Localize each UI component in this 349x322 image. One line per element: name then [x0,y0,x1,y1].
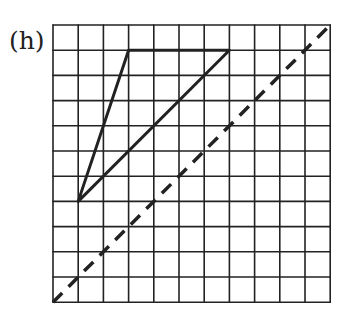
grid-diagram [0,0,349,322]
mirror-line-dashed [53,25,330,302]
